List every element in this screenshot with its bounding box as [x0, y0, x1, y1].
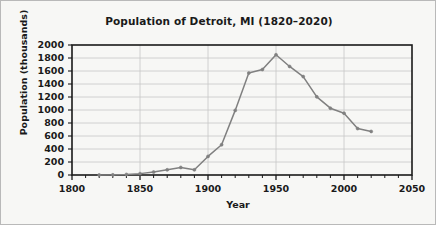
x-tick-label: 1800 — [52, 183, 92, 194]
data-point-marker — [261, 68, 264, 71]
data-point-marker — [125, 173, 128, 176]
y-tick-label: 0 — [28, 169, 64, 180]
data-point-marker — [207, 155, 210, 158]
data-point-marker — [139, 172, 142, 175]
data-point-marker — [193, 168, 196, 171]
y-tick-label: 800 — [28, 117, 64, 128]
data-point-marker — [315, 95, 318, 98]
x-tick-label: 1850 — [120, 183, 160, 194]
data-point-marker — [343, 112, 346, 115]
data-point-marker — [152, 171, 155, 174]
y-tick-label: 600 — [28, 130, 64, 141]
y-tick-label: 1600 — [28, 65, 64, 76]
y-tick-label: 200 — [28, 156, 64, 167]
axis-ticks — [68, 45, 412, 180]
y-tick-label: 1000 — [28, 104, 64, 115]
data-point-marker — [356, 127, 359, 130]
data-point-marker — [179, 166, 182, 169]
y-tick-label: 1800 — [28, 52, 64, 63]
x-tick-label: 1950 — [256, 183, 296, 194]
data-point-marker — [220, 143, 223, 146]
data-series — [98, 53, 373, 176]
x-tick-label: 2050 — [392, 183, 432, 194]
y-tick-label: 1400 — [28, 78, 64, 89]
data-point-marker — [302, 75, 305, 78]
data-point-marker — [247, 72, 250, 75]
x-tick-label: 2000 — [324, 183, 364, 194]
data-point-marker — [166, 168, 169, 171]
data-point-marker — [329, 107, 332, 110]
x-tick-label: 1900 — [188, 183, 228, 194]
y-tick-label: 2000 — [28, 39, 64, 50]
chart-figure: Population of Detroit, MI (1820–2020) Po… — [0, 0, 436, 225]
data-point-marker — [288, 65, 291, 68]
data-point-marker — [111, 173, 114, 176]
data-point-marker — [370, 130, 373, 133]
y-tick-label: 1200 — [28, 91, 64, 102]
data-point-marker — [275, 53, 278, 56]
y-tick-label: 400 — [28, 143, 64, 154]
gridlines — [72, 45, 412, 175]
data-point-marker — [98, 173, 101, 176]
data-point-marker — [234, 109, 237, 112]
